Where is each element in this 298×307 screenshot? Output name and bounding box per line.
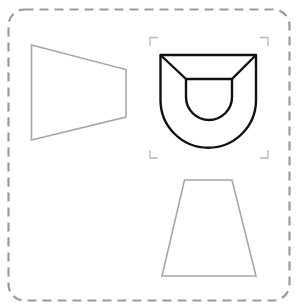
bracket-top-left xyxy=(150,38,158,47)
shield-u-shape xyxy=(161,55,257,148)
shape-trapezoid-bottom[interactable] xyxy=(162,180,256,276)
bevel-left xyxy=(161,55,187,79)
bracket-top-right xyxy=(260,38,268,47)
trapezoid-left-outline xyxy=(32,45,127,140)
trapezoid-bottom-outline xyxy=(162,180,256,276)
bracket-bottom-left xyxy=(150,150,158,158)
bevel-right xyxy=(232,55,256,79)
shape-trapezoid-left[interactable] xyxy=(32,45,127,140)
shield-inner xyxy=(186,79,232,120)
bracket-bottom-right xyxy=(260,150,268,158)
shape-shield-selected[interactable] xyxy=(150,38,268,159)
diagram-canvas xyxy=(0,0,298,307)
